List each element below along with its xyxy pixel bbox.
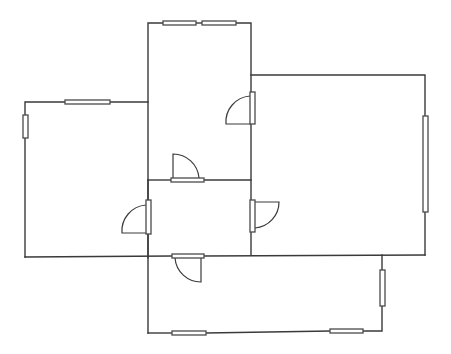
door-leaf <box>250 92 255 124</box>
window-bottom-right-side <box>380 270 385 306</box>
floor-plan <box>0 0 451 354</box>
window-top-2 <box>202 21 236 25</box>
door-leaf <box>171 178 204 182</box>
door-leaf <box>172 254 204 258</box>
window-bottom-1 <box>172 331 206 335</box>
window-top-1 <box>163 21 196 25</box>
window-bottom-2 <box>330 329 363 333</box>
window-right-side <box>423 116 428 212</box>
door-leaf <box>250 200 255 232</box>
window-left-top <box>65 100 110 104</box>
window-left-side <box>23 115 28 138</box>
door-leaf <box>146 200 151 234</box>
wall-main-bottom-wall-a <box>25 256 172 257</box>
